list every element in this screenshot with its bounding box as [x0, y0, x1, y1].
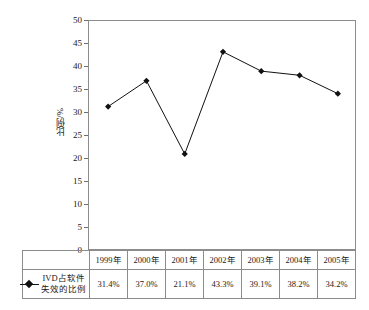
value-cell-2001: 21.1% — [166, 270, 204, 299]
chart-figure: 比例/% 50 45 40 35 30 25 20 15 10 5 0 1999… — [0, 0, 369, 310]
legend-label-line2: 失效的比例 — [41, 284, 86, 294]
y-tick-label-35: 35 — [62, 85, 82, 94]
year-cell-2004: 2004年 — [280, 251, 318, 270]
legend-line-diamond-icon — [20, 279, 39, 289]
y-tick-label-20: 20 — [62, 154, 82, 163]
data-point-2003年 — [258, 68, 264, 74]
year-cell-2000: 2000年 — [128, 251, 166, 270]
year-cell-1999: 1999年 — [90, 251, 128, 270]
line-series-svg — [89, 21, 357, 251]
y-tick-label-15: 15 — [62, 177, 82, 186]
year-cell-2002: 2002年 — [204, 251, 242, 270]
series-line-ivd — [108, 52, 338, 154]
table-row-values: IVD占软件 失效的比例 31.4% 37.0% 21.1% 43.3% 39.… — [23, 270, 356, 299]
value-cell-1999: 31.4% — [90, 270, 128, 299]
y-tick-label-40: 40 — [62, 62, 82, 71]
table-corner-cell — [23, 251, 90, 270]
data-point-2004年 — [296, 72, 302, 78]
y-tick-label-50: 50 — [62, 16, 82, 25]
value-cell-2003: 39.1% — [242, 270, 280, 299]
legend-label-line1: IVD占软件 — [42, 273, 84, 283]
year-cell-2003: 2003年 — [242, 251, 280, 270]
data-point-2005年 — [335, 91, 341, 97]
y-tick-label-30: 30 — [62, 108, 82, 117]
plot-area — [88, 20, 356, 250]
data-point-2002年 — [220, 49, 226, 55]
y-tick-label-5: 5 — [62, 223, 82, 232]
year-cell-2001: 2001年 — [166, 251, 204, 270]
value-cell-2002: 43.3% — [204, 270, 242, 299]
y-tick-label-45: 45 — [62, 39, 82, 48]
year-cell-2005: 2005年 — [318, 251, 356, 270]
data-point-2001年 — [182, 151, 188, 157]
value-cell-2005: 34.2% — [318, 270, 356, 299]
legend-cell: IVD占软件 失效的比例 — [23, 270, 90, 299]
series-markers-group — [105, 49, 341, 157]
value-cell-2000: 37.0% — [128, 270, 166, 299]
table-row-years: 1999年 2000年 2001年 2002年 2003年 2004年 2005… — [23, 251, 356, 270]
y-tick-label-25: 25 — [62, 131, 82, 140]
y-tick-label-10: 10 — [62, 200, 82, 209]
data-point-2000年 — [143, 78, 149, 84]
data-table: 1999年 2000年 2001年 2002年 2003年 2004年 2005… — [22, 250, 356, 299]
data-point-1999年 — [105, 103, 111, 109]
legend-label: IVD占软件 失效的比例 — [41, 273, 86, 295]
value-cell-2004: 38.2% — [280, 270, 318, 299]
